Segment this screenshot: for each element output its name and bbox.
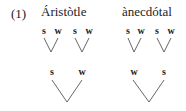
branch-line [134,38,141,52]
branch-line [67,80,82,102]
branch-line [149,80,164,102]
branch-line [157,38,164,52]
branch-line [164,38,171,52]
branch-line [133,80,149,102]
branch-line [82,38,89,52]
metrical-trees [0,0,186,111]
branch-line [52,80,67,102]
branch-line [44,38,51,52]
branch-line [51,38,58,52]
branch-line [75,38,82,52]
branch-line [128,38,134,52]
